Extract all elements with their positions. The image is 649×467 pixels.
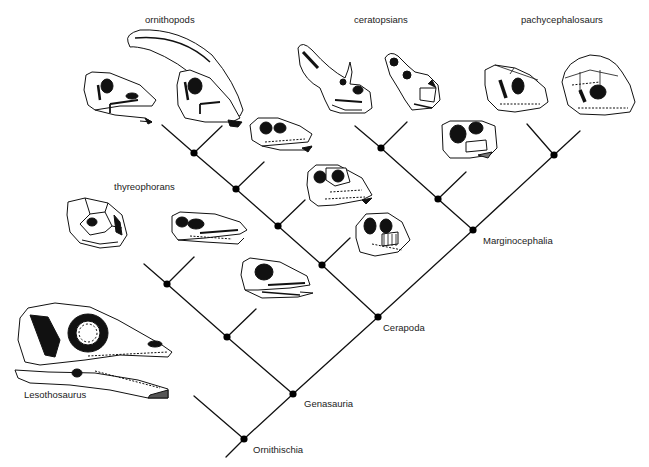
tree-branches — [144, 122, 580, 457]
node-cerapoda — [374, 313, 381, 320]
branch-cerapoda — [293, 317, 378, 394]
thyreophoran-skull-2 — [172, 212, 247, 244]
node-genasauria — [289, 390, 296, 397]
branch-genasauria — [244, 394, 293, 439]
label-cerapoda: Cerapoda — [383, 322, 425, 333]
branch-ornithopoda-3 — [236, 189, 278, 226]
label-thyreophorans: thyreophorans — [114, 181, 175, 192]
node-thyreophora-2 — [163, 280, 170, 287]
branch-thyreophoran-skull-armored — [144, 264, 167, 284]
branch-thyreophora-inner — [167, 284, 227, 337]
pachycephalosaur-skull-domed — [562, 55, 635, 115]
node-ornithopoda-4 — [190, 149, 197, 156]
node-ornithopoda-2 — [274, 222, 281, 229]
branch-lesothosaurus — [194, 396, 244, 439]
ceratopsian-skull-horned — [298, 44, 372, 113]
ceratopsian-skull-frilled — [385, 53, 440, 110]
node-ceratopsia-1 — [434, 195, 441, 202]
ornithopod-skull-5 — [356, 213, 410, 256]
branch-ceratopsia-inner — [381, 148, 438, 199]
branch-ornithopoda — [322, 265, 378, 317]
branch-ceratopsian-skull-basal — [438, 172, 466, 199]
branch-ceratopsian-skull-horned — [355, 126, 381, 148]
ornithopod-skull-crested — [128, 30, 244, 127]
branch-ornithopoda-2 — [278, 226, 322, 265]
node-marginocephalia — [469, 226, 476, 233]
branch-ornithopod-skull-3 — [236, 162, 264, 189]
node-thyreophora-1 — [223, 333, 230, 340]
label-genasauria: Genasauria — [304, 398, 353, 409]
label-marginocephalia: Marginocephalia — [483, 235, 553, 246]
ornithopod-skull-4 — [307, 165, 372, 206]
branch-ceratopsian-skull-frilled — [381, 122, 407, 148]
lesothosaurus-skull — [15, 303, 172, 398]
branch-ornithopod-skull-1 — [162, 125, 194, 153]
branch-ornithopod-skull-crested — [194, 126, 222, 153]
node-ornithischia — [240, 435, 247, 442]
node-ornithopoda-3 — [232, 185, 239, 192]
ornithopod-skull-3 — [250, 118, 312, 152]
node-ceratopsia-2 — [377, 144, 384, 151]
root-stem — [226, 439, 244, 457]
branch-thyreophoran-skull-3 — [227, 309, 256, 337]
label-ceratopsians: ceratopsians — [354, 14, 408, 25]
branch-ornithopoda-4 — [194, 153, 236, 189]
ornithopod-skull-1 — [84, 72, 156, 124]
label-lesothosaurus: Lesothosaurus — [24, 389, 86, 400]
branch-thyreophoran-skull-2 — [167, 257, 194, 284]
cladogram-figure: ornithopods ceratopsians pachycephalosau… — [0, 0, 649, 467]
branch-pachy-skull-domed — [554, 131, 580, 155]
branch-ceratopsia — [438, 199, 473, 230]
label-pachycephalosaurs: pachycephalosaurs — [521, 14, 603, 25]
skull-illustrations — [15, 30, 635, 398]
branch-ornithopod-skull-5 — [322, 238, 350, 265]
label-ornithischia: Ornithischia — [253, 444, 303, 455]
branch-pachy-skull-flat — [527, 124, 554, 155]
node-pachycephalosauria — [550, 151, 557, 158]
branch-ornithopod-skull-4 — [278, 200, 305, 226]
thyreophoran-skull-3 — [241, 258, 313, 298]
pachycephalosaur-skull-flat — [485, 65, 548, 112]
cladogram-svg — [0, 0, 649, 467]
label-ornithopods: ornithopods — [145, 14, 195, 25]
thyreophoran-skull-armored — [67, 198, 127, 248]
branch-pachycephalosauria — [473, 155, 554, 230]
branch-thyreophora — [227, 337, 293, 394]
ceratopsian-skull-basal — [442, 121, 497, 158]
node-ornithopoda-1 — [318, 261, 325, 268]
